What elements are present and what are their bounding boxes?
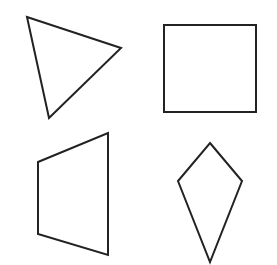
kite-shape <box>178 143 242 262</box>
square-shape <box>164 25 256 112</box>
trapezoid-shape <box>38 133 108 255</box>
shapes-figure <box>0 0 277 265</box>
shapes-canvas <box>0 0 277 265</box>
triangle-shape <box>27 17 121 118</box>
